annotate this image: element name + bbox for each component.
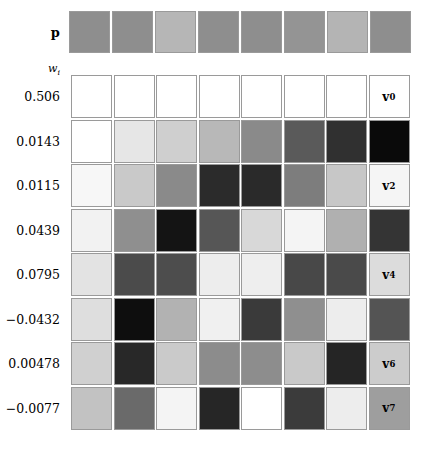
weight-value: 0.0795 [0,253,64,296]
basis-cell [284,209,325,252]
basis-cell [241,253,282,296]
mean-vector-cells [69,11,411,53]
mean-cell [155,11,196,53]
basis-vector-row: −0.0077v7 [0,387,425,432]
basis-vector-symbol: v [382,401,389,415]
mean-cell [69,11,110,53]
basis-cell [114,298,155,341]
basis-cell [156,120,197,163]
basis-row-cells: v2 [71,164,410,207]
basis-cell [156,387,197,430]
basis-vector-symbol: v [382,268,389,282]
basis-cell [284,342,325,385]
mean-vector-section: p [0,10,425,56]
mean-cell [284,11,325,53]
basis-cell: v7 [369,387,410,430]
basis-cell [199,75,240,118]
basis-cell [284,253,325,296]
basis-cell [284,298,325,341]
weight-value: 0.506 [0,75,64,118]
basis-cell [326,253,367,296]
basis-cell [156,164,197,207]
eigenvector-basis-figure: p wi 0.506v00.01430.0115v20.04390.0795v4… [0,0,425,449]
basis-cell [156,298,197,341]
basis-row-cells: v4 [71,253,410,296]
basis-cell [199,253,240,296]
basis-vector-name: v6 [370,343,409,384]
basis-row-cells [71,298,410,341]
basis-cell [114,164,155,207]
basis-cell [199,342,240,385]
basis-cell [241,387,282,430]
basis-vector-row: 0.0795v4 [0,253,425,298]
weight-value: −0.0432 [0,298,64,341]
basis-vector-index: 2 [390,181,396,191]
basis-cell [326,209,367,252]
basis-vector-row: 0.506v0 [0,75,425,120]
basis-vector-symbol: v [382,90,389,104]
basis-cell [156,253,197,296]
basis-cell [241,75,282,118]
basis-cell: v4 [369,253,410,296]
basis-cell [71,387,112,430]
mean-cell [241,11,282,53]
basis-cell [284,387,325,430]
basis-cell [241,120,282,163]
basis-cell [326,75,367,118]
basis-cell [284,164,325,207]
basis-cell [326,342,367,385]
mean-cell [198,11,239,53]
basis-cell [114,253,155,296]
basis-cell [71,298,112,341]
basis-cell [199,298,240,341]
basis-row-cells: v7 [71,387,410,430]
basis-cell [199,387,240,430]
basis-cell [284,120,325,163]
basis-vector-grid: 0.506v00.01430.0115v20.04390.0795v4−0.04… [0,75,425,431]
basis-cell [199,209,240,252]
basis-cell [284,75,325,118]
basis-cell [369,298,410,341]
mean-cell [370,11,411,53]
basis-cell [369,209,410,252]
basis-cell [241,298,282,341]
basis-cell [156,75,197,118]
basis-vector-index: 6 [390,359,396,369]
weight-value: 0.0143 [0,120,64,163]
basis-cell [326,298,367,341]
basis-vector-row: 0.00478v6 [0,342,425,387]
basis-cell: v6 [369,342,410,385]
basis-cell: v0 [369,75,410,118]
basis-cell: v2 [369,164,410,207]
basis-cell [114,387,155,430]
basis-cell [114,75,155,118]
basis-vector-row: 0.0143 [0,120,425,165]
basis-cell [156,342,197,385]
basis-vector-row: 0.0115v2 [0,164,425,209]
basis-vector-name: v7 [370,388,409,429]
basis-vector-name: v0 [370,76,409,117]
basis-cell [71,253,112,296]
weight-value: 0.00478 [0,342,64,385]
basis-row-cells [71,209,410,252]
basis-cell [326,387,367,430]
basis-cell [114,120,155,163]
weight-value: 0.0115 [0,164,64,207]
basis-vector-name: v4 [370,254,409,295]
basis-cell [326,120,367,163]
mean-cell [112,11,153,53]
basis-cell [71,120,112,163]
basis-vector-name: v2 [370,165,409,206]
basis-vector-index: 4 [390,270,396,280]
basis-cell [114,209,155,252]
basis-row-cells: v6 [71,342,410,385]
basis-vector-index: 7 [390,403,396,413]
mean-vector-label: p [0,10,64,54]
basis-cell [71,75,112,118]
basis-cell [241,164,282,207]
weight-value: 0.0439 [0,209,64,252]
basis-cell [326,164,367,207]
basis-cell [114,342,155,385]
basis-vector-symbol: v [382,357,389,371]
basis-cell [241,342,282,385]
